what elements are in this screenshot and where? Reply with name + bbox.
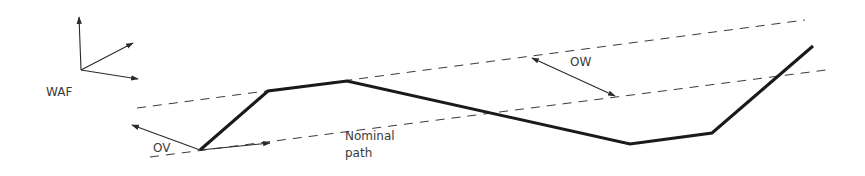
nominal-label-line2: path <box>345 146 372 160</box>
waf-axis-z <box>79 17 81 70</box>
waf-label: WAF <box>46 85 72 99</box>
waf-axis-y <box>81 43 133 70</box>
waf-axis-x <box>81 70 138 79</box>
upper-boundary-line <box>137 20 805 108</box>
actual-path-line <box>200 46 813 150</box>
nominal-label-line1: Nominal <box>345 129 395 143</box>
nominal-direction-arrow <box>200 143 270 150</box>
waf-frame-axes-icon <box>79 17 138 79</box>
ov-label: OV <box>153 141 171 155</box>
ow-label: OW <box>570 55 591 69</box>
path-offset-diagram: WAF OV Nominal path OW <box>0 0 865 176</box>
